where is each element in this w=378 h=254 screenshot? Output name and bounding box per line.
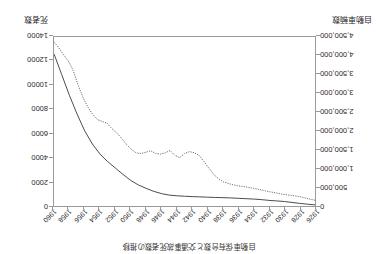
x-axis-tick xyxy=(98,207,99,211)
left-tick-label: 3,500,000 xyxy=(320,69,378,78)
left-tick-label: 4,500,000 xyxy=(320,31,378,40)
x-axis-tick xyxy=(176,207,177,211)
x-axis-tick xyxy=(67,207,68,211)
x-tick-label: 1936 xyxy=(228,208,244,224)
x-tick-label: 1930 xyxy=(274,208,290,224)
x-tick-label: 1944 xyxy=(166,208,182,224)
right-tick-label: 14000 xyxy=(0,31,48,40)
left-axis-tick xyxy=(316,206,320,207)
x-axis-tick xyxy=(253,207,254,211)
left-tick-label: 500,000 xyxy=(320,183,378,192)
rotated-figure-wrapper: 自動車保有台数と交通事故死者数の推移 0500,0001,000,0001,50… xyxy=(0,0,378,254)
x-tick-label: 1958 xyxy=(57,208,73,224)
left-tick-label: 4,000,000 xyxy=(320,50,378,59)
x-tick-label: 1942 xyxy=(181,208,197,224)
left-axis-tick xyxy=(316,73,320,74)
x-tick-label: 1934 xyxy=(243,208,259,224)
left-axis-tick xyxy=(316,130,320,131)
left-tick-label: 0 xyxy=(320,202,378,211)
right-tick-label: 0 xyxy=(0,202,48,211)
left-tick-label: 1,500,000 xyxy=(320,145,378,154)
x-axis-tick xyxy=(129,207,130,211)
right-tick-label: 10000 xyxy=(0,80,48,89)
x-tick-label: 1932 xyxy=(259,208,275,224)
chart-figure: 自動車保有台数と交通事故死者数の推移 0500,0001,000,0001,50… xyxy=(0,0,378,254)
left-tick-label: 1,000,000 xyxy=(320,164,378,173)
x-axis-tick xyxy=(300,207,301,211)
right-tick-label: 6000 xyxy=(0,129,48,138)
x-axis-tick xyxy=(52,207,53,211)
right-axis-tick xyxy=(49,108,53,109)
left-axis-tick xyxy=(316,35,320,36)
right-axis-tick xyxy=(49,59,53,60)
x-tick-label: 1952 xyxy=(104,208,120,224)
x-axis-tick xyxy=(269,207,270,211)
series-canvas xyxy=(54,37,315,206)
series-automobiles-line xyxy=(54,54,315,205)
right-axis-tick xyxy=(49,84,53,85)
right-axis-title: 死者数 xyxy=(24,15,48,26)
x-tick-label: 1938 xyxy=(212,208,228,224)
left-axis-title: 自動車輌数 xyxy=(332,15,372,26)
left-tick-label: 2,500,000 xyxy=(320,107,378,116)
right-axis-tick xyxy=(49,133,53,134)
x-axis-tick xyxy=(145,207,146,211)
x-axis-tick xyxy=(238,207,239,211)
left-axis-tick xyxy=(316,54,320,55)
left-axis-tick xyxy=(316,111,320,112)
x-tick-label: 1940 xyxy=(197,208,213,224)
x-axis-tick xyxy=(207,207,208,211)
right-axis-tick xyxy=(49,35,53,36)
right-tick-label: 12000 xyxy=(0,55,48,64)
series-fatalities-line xyxy=(54,42,315,200)
x-axis-tick xyxy=(191,207,192,211)
x-axis-tick xyxy=(222,207,223,211)
x-axis-tick-labels: 1926192819301932193419361938194019421944… xyxy=(53,208,316,246)
x-tick-label: 1950 xyxy=(119,208,135,224)
x-axis-tick xyxy=(160,207,161,211)
x-axis-tick xyxy=(315,207,316,211)
right-tick-label: 2000 xyxy=(0,178,48,187)
right-axis-tick xyxy=(49,157,53,158)
x-tick-label: 1946 xyxy=(150,208,166,224)
left-tick-label: 3,000,000 xyxy=(320,88,378,97)
left-axis-tick xyxy=(316,187,320,188)
x-axis-tick xyxy=(83,207,84,211)
left-axis-tick xyxy=(316,168,320,169)
right-axis-tick xyxy=(49,182,53,183)
x-tick-label: 1928 xyxy=(290,208,306,224)
right-tick-label: 8000 xyxy=(0,104,48,113)
x-tick-label: 1948 xyxy=(135,208,151,224)
x-tick-label: 1954 xyxy=(88,208,104,224)
left-axis-tick xyxy=(316,149,320,150)
x-axis-tick xyxy=(284,207,285,211)
left-tick-label: 2,000,000 xyxy=(320,126,378,135)
x-tick-label: 1926 xyxy=(305,208,321,224)
left-axis-tick xyxy=(316,92,320,93)
x-tick-label: 1956 xyxy=(73,208,89,224)
x-axis-tick xyxy=(114,207,115,211)
plot-area xyxy=(53,36,316,207)
right-tick-label: 4000 xyxy=(0,153,48,162)
